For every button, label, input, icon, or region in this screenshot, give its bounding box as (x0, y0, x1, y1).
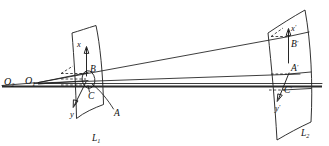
label-axis-x-l1: x (76, 39, 81, 49)
diagram-canvas: O2 O1 x y B C A L1 x′ y′ B′ (0, 0, 329, 146)
label-surface-l2: L2 (300, 128, 309, 139)
label-center-o2: O2 (4, 76, 14, 88)
label-axis-y-l1: y (69, 109, 74, 119)
label-point-c: C (88, 91, 95, 101)
label-center-o1: O1 (25, 75, 35, 87)
label-point-a: A (113, 108, 120, 118)
label-point-b: B (90, 64, 96, 74)
optical-ray-diagram-figure: O2 O1 x y B C A L1 x′ y′ B′ (0, 0, 329, 146)
dashed-edge-l1-left (61, 66, 73, 74)
label-surface-l1: L1 (91, 133, 100, 144)
